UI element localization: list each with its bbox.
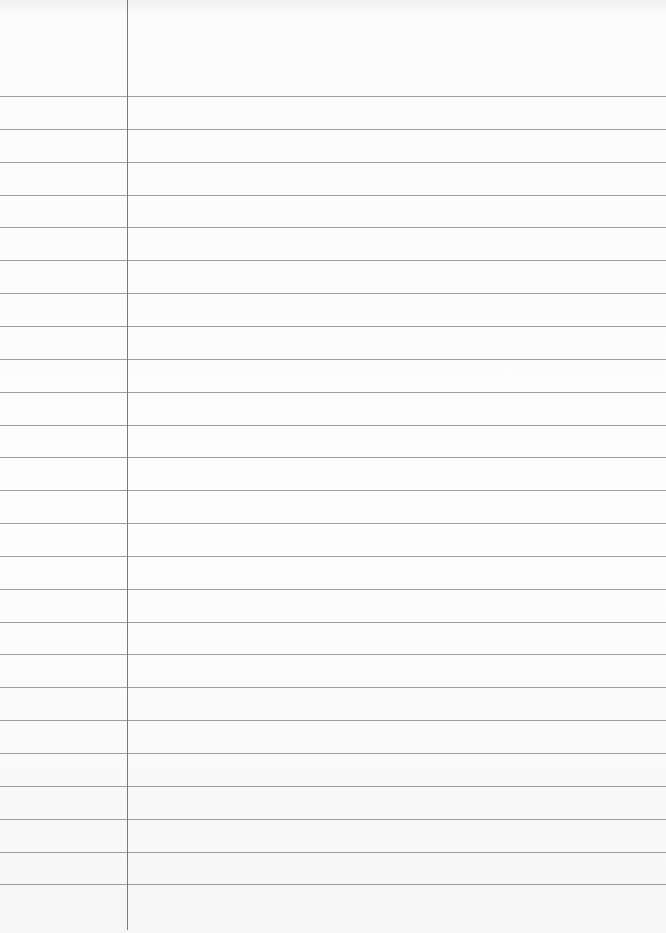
ruled-line [0, 162, 666, 163]
lined-paper-sheet [0, 0, 666, 933]
ruled-line [0, 884, 666, 885]
ruled-line [0, 753, 666, 754]
ruled-line [0, 425, 666, 426]
ruled-line [0, 622, 666, 623]
ruled-line [0, 490, 666, 491]
ruled-line [0, 96, 666, 97]
ruled-line [0, 720, 666, 721]
ruled-line [0, 819, 666, 820]
ruled-line [0, 195, 666, 196]
ruled-line [0, 786, 666, 787]
ruled-line [0, 129, 666, 130]
ruled-line [0, 589, 666, 590]
ruled-line [0, 457, 666, 458]
ruled-line [0, 227, 666, 228]
ruled-line [0, 654, 666, 655]
ruled-line [0, 359, 666, 360]
ruled-line [0, 523, 666, 524]
ruled-line [0, 556, 666, 557]
ruled-line [0, 260, 666, 261]
margin-line [127, 0, 128, 930]
ruled-line [0, 687, 666, 688]
ruled-line [0, 293, 666, 294]
ruled-line [0, 392, 666, 393]
ruled-line [0, 326, 666, 327]
ruled-line [0, 852, 666, 853]
